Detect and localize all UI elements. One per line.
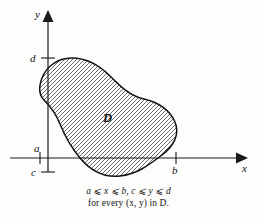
- region-label-d: D: [102, 111, 112, 125]
- caption-inequalities: a ⩽ x ⩽ b, c ⩽ y ⩽ d: [0, 186, 257, 198]
- tick-label-c: c: [31, 166, 36, 178]
- caption-condition: for every (x, y) in D.: [0, 198, 257, 210]
- y-axis-label: y: [34, 8, 40, 20]
- figure-container: y x d a c b D a ⩽ x ⩽ b, c ⩽ y ⩽ d for e…: [0, 0, 257, 224]
- tick-label-d: d: [30, 52, 36, 64]
- tick-label-b: b: [172, 164, 178, 176]
- x-axis-label: x: [241, 162, 247, 174]
- tick-label-a: a: [34, 142, 40, 154]
